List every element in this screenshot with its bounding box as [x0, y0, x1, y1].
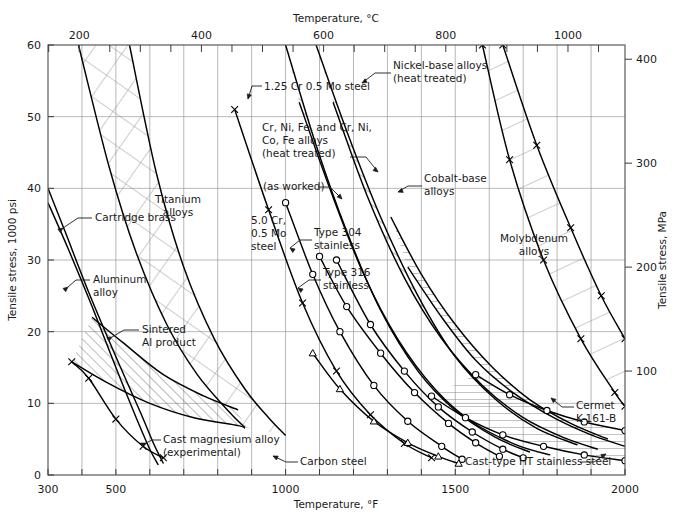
svg-text:50: 50 [27, 111, 41, 124]
annotation-text: (experimental) [163, 446, 241, 458]
annotation-text: Al product [142, 336, 196, 348]
marker-circle [540, 443, 546, 449]
annotation-14: CermetK-161-B [576, 399, 616, 424]
svg-text:2000: 2000 [611, 483, 639, 496]
annotation-text: Carbon steel [300, 455, 367, 467]
annotation-15: Carbon steel [300, 455, 367, 467]
marker-circle [507, 392, 513, 398]
annotation-text: steel [251, 240, 276, 252]
annotation-text: Cast-type HT stainless steel [465, 455, 611, 467]
svg-text:40: 40 [27, 182, 41, 195]
svg-text:30: 30 [27, 254, 41, 267]
annotation-text: Type 316 [322, 266, 371, 278]
annotation-text: 0.5 Mo [251, 227, 287, 239]
annotation-text: (as worked) [263, 180, 325, 192]
annotation-9: Type 304stainless [313, 226, 362, 251]
left-axis-title: Tensile stress, 1000 psi [6, 199, 18, 322]
annotation-text: alloy [93, 286, 118, 298]
svg-text:400: 400 [191, 29, 212, 42]
marker-circle [435, 404, 441, 410]
marker-circle [544, 407, 550, 413]
annotation-text: (heat treated) [262, 147, 336, 159]
svg-text:20: 20 [27, 326, 41, 339]
annotation-text: Cobalt-base [424, 172, 487, 184]
annotation-text: Co, Fe alloys [262, 134, 328, 146]
annotation-text: 1.25 Cr 0.5 Mo steel [264, 80, 370, 92]
marker-circle [371, 382, 377, 388]
annotation-text: K-161-B [576, 412, 616, 424]
marker-circle [316, 253, 322, 259]
svg-text:1000: 1000 [272, 483, 300, 496]
marker-circle [428, 393, 434, 399]
annotation-text: Cr, Ni, Fe, and Cr, Ni, [262, 121, 372, 133]
marker-circle [344, 303, 350, 309]
annotation-text: Nickel-base alloys [393, 59, 487, 71]
svg-text:300: 300 [38, 483, 59, 496]
annotation-text: alloys [163, 206, 193, 218]
marker-circle [473, 440, 479, 446]
marker-circle [439, 443, 445, 449]
marker-circle [405, 418, 411, 424]
annotation-16: Cast-type HT stainless steel [465, 455, 611, 467]
marker-circle [378, 350, 384, 356]
marker-circle [337, 329, 343, 335]
svg-text:400: 400 [636, 53, 657, 66]
marker-circle [500, 432, 506, 438]
annotation-text: 5.0 Cr, [251, 214, 286, 226]
annotation-text: alloys [424, 185, 454, 197]
marker-circle [282, 200, 288, 206]
svg-text:500: 500 [105, 483, 126, 496]
svg-text:300: 300 [636, 157, 657, 170]
marker-circle [333, 257, 339, 263]
annotation-text: Cermet [576, 399, 615, 411]
marker-circle [445, 420, 451, 426]
svg-text:200: 200 [636, 261, 657, 274]
svg-text:1000: 1000 [554, 29, 582, 42]
marker-circle [462, 415, 468, 421]
chart-root: 3005001000150020002004006008001000010203… [0, 0, 676, 521]
annotation-text: alloys [519, 245, 549, 257]
annotation-text: Cast magnesium alloy [163, 433, 280, 445]
svg-text:100: 100 [636, 365, 657, 378]
annotation-text: Titanium [154, 193, 201, 205]
marker-circle [411, 389, 417, 395]
marker-circle [401, 368, 407, 374]
annotation-5: 1.25 Cr 0.5 Mo steel [264, 80, 370, 92]
marker-circle [500, 446, 506, 452]
svg-text:10: 10 [27, 397, 41, 410]
svg-text:200: 200 [69, 29, 90, 42]
marker-circle [367, 321, 373, 327]
right-axis-title: Tensile stress, MPa [656, 211, 668, 310]
annotation-text: Type 304 [313, 226, 362, 238]
annotation-text: Aluminum [93, 273, 146, 285]
top-axis-title: Temperature, °C [292, 12, 379, 24]
marker-circle [310, 271, 316, 277]
svg-text:60: 60 [27, 39, 41, 52]
annotation-text: (heat treated) [393, 72, 467, 84]
marker-circle [473, 372, 479, 378]
bottom-axis-title: Temperature, °F [293, 498, 378, 510]
annotation-text: Molybdenum [500, 232, 568, 244]
tensile-stress-vs-temperature-chart: 3005001000150020002004006008001000010203… [0, 0, 676, 521]
annotation-10: Type 316stainless [322, 266, 371, 291]
svg-text:600: 600 [313, 29, 334, 42]
svg-text:1500: 1500 [441, 483, 469, 496]
annotation-text: stainless [323, 279, 369, 291]
annotation-7: (as worked) [263, 180, 325, 192]
marker-circle [469, 429, 475, 435]
annotation-text: stainless [314, 239, 360, 251]
svg-text:0: 0 [34, 469, 41, 482]
svg-text:800: 800 [435, 29, 456, 42]
annotation-text: Sintered [142, 323, 186, 335]
